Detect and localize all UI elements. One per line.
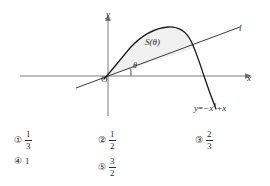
fraction-denominator: 3 [25,140,32,151]
choice-2-value: 1 2 [109,130,116,151]
fraction-denominator: 2 [109,140,116,151]
choice-1-marker: ① [14,136,22,145]
choice-2[interactable]: ② 1 2 [98,130,116,151]
choice-5[interactable]: ⑤ 3 2 [98,157,116,178]
fraction-numerator: 3 [109,157,116,167]
origin-label: O [101,75,108,84]
choice-4[interactable]: ④ 1 [14,157,30,166]
choice-4-value: 1 [25,157,30,166]
choice-5-marker: ⑤ [98,163,106,172]
line-l-label: l [239,24,242,33]
y-axis-label: y [106,10,110,19]
fraction: 1 2 [109,130,116,151]
region-area-label: S(θ) [145,38,160,47]
choice-5-value: 3 2 [109,157,116,178]
angle-theta-label: θ [133,62,137,70]
fraction-numerator: 2 [206,130,213,140]
curve-equation-label: y=−x3+x [194,102,226,113]
fraction: 2 3 [206,130,213,151]
choice-3-value: 2 3 [206,130,213,151]
equation-term1-base: −x [203,103,213,113]
choice-1-value: 1 3 [25,130,32,151]
fraction-numerator: 1 [25,130,32,140]
choice-4-marker: ④ [14,157,22,166]
answer-choices: ① 1 3 ② 1 2 ③ 2 3 ④ 1 ⑤ [0,124,270,186]
equation-term2: +x [216,103,226,113]
fraction-numerator: 1 [109,130,116,140]
shaded-region-s-theta [108,27,195,76]
fraction: 3 2 [109,157,116,178]
choice-2-marker: ② [98,136,106,145]
fraction: 1 3 [25,130,32,151]
choice-3-marker: ③ [195,136,203,145]
choice-3[interactable]: ③ 2 3 [195,130,213,151]
choice-1[interactable]: ① 1 3 [14,130,32,151]
x-axis-label: x [247,74,251,83]
fraction-denominator: 3 [206,140,213,151]
fraction-denominator: 2 [109,167,116,178]
figure-area: y x O l θ S(θ) y=−x3+x [0,0,270,125]
